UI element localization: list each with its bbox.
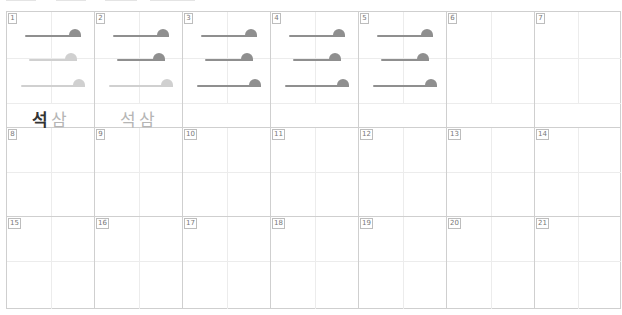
practice-cell: 5 [359, 12, 447, 128]
cell-number: 4 [272, 13, 281, 24]
guide-line [95, 103, 182, 104]
brush-stroke [113, 35, 167, 37]
brush-stroke [205, 59, 251, 61]
brush-stroke [289, 35, 343, 37]
cell-number: 2 [96, 13, 105, 24]
cell-number: 17 [184, 218, 197, 229]
brush-stroke [293, 59, 339, 61]
cell-number: 12 [360, 129, 373, 140]
brush-stroke [285, 85, 347, 87]
guide-line [359, 261, 446, 262]
guide-line [315, 217, 316, 309]
practice-cell: 1석삼 [7, 12, 95, 128]
guide-line [359, 172, 446, 173]
guide-line [535, 103, 621, 104]
cell-number: 19 [360, 218, 373, 229]
cell-number: 16 [96, 218, 109, 229]
practice-cell: 13 [447, 128, 535, 217]
brush-stroke [21, 85, 83, 87]
brush-stroke [117, 59, 163, 61]
brush-stroke [201, 35, 255, 37]
guide-line [7, 172, 94, 173]
practice-cell: 20 [447, 217, 535, 309]
practice-cell: 18 [271, 217, 359, 309]
guide-line [7, 261, 94, 262]
guide-line [535, 172, 621, 173]
practice-cell: 7 [535, 12, 621, 128]
practice-cell: 4 [271, 12, 359, 128]
cell-number: 14 [536, 129, 549, 140]
guide-line [403, 217, 404, 309]
practice-cell: 10 [183, 128, 271, 217]
cell-number: 1 [8, 13, 17, 24]
guide-line [51, 217, 52, 309]
cell-number: 13 [448, 129, 461, 140]
cell-number: 8 [8, 129, 17, 140]
practice-cell: 19 [359, 217, 447, 309]
practice-cell: 16 [95, 217, 183, 309]
cell-number: 9 [96, 129, 105, 140]
hangul-character: 석 [120, 110, 139, 130]
brush-stroke [25, 35, 79, 37]
practice-cell: 2석삼 [95, 12, 183, 128]
cell-number: 7 [536, 13, 545, 24]
cell-number: 5 [360, 13, 369, 24]
hangul-character: 삼 [51, 110, 70, 130]
practice-cell: 9 [95, 128, 183, 217]
cell-number: 10 [184, 129, 197, 140]
guide-line [183, 103, 270, 104]
guide-line [227, 217, 228, 309]
cell-number: 15 [8, 218, 21, 229]
cell-number: 3 [184, 13, 193, 24]
guide-line [183, 172, 270, 173]
guide-line [447, 261, 534, 262]
guide-line [535, 261, 621, 262]
practice-cell: 6 [447, 12, 535, 128]
cell-number: 18 [272, 218, 285, 229]
practice-grid: 1석삼2석삼3456789101112131415161718192021 [6, 11, 621, 309]
practice-cell: 15 [7, 217, 95, 309]
guide-line [447, 58, 534, 59]
guide-line [7, 103, 94, 104]
guide-line [359, 103, 446, 104]
brush-stroke [373, 85, 435, 87]
practice-cell: 11 [271, 128, 359, 217]
guide-line [95, 172, 182, 173]
guide-line [95, 261, 182, 262]
guide-line [578, 217, 579, 309]
brush-stroke [197, 85, 259, 87]
guide-line [271, 103, 358, 104]
guide-line [535, 58, 621, 59]
guide-line [447, 103, 534, 104]
brush-stroke [109, 85, 171, 87]
cell-number: 6 [448, 13, 457, 24]
brush-stroke [377, 35, 431, 37]
hangul-character: 삼 [139, 110, 158, 130]
cell-number: 11 [272, 129, 285, 140]
hangul-character: 석 [32, 110, 51, 130]
guide-line [183, 261, 270, 262]
practice-cell: 3 [183, 12, 271, 128]
guide-line [139, 217, 140, 309]
practice-cell: 12 [359, 128, 447, 217]
brush-stroke [381, 59, 427, 61]
practice-cell: 8 [7, 128, 95, 217]
guide-line [447, 172, 534, 173]
practice-cell: 17 [183, 217, 271, 309]
practice-cell: 21 [535, 217, 621, 309]
guide-line [271, 261, 358, 262]
guide-line [271, 172, 358, 173]
cropped-header-text [0, 0, 622, 4]
cell-number: 20 [448, 218, 461, 229]
practice-cell: 14 [535, 128, 621, 217]
cell-number: 21 [536, 218, 549, 229]
guide-line [491, 217, 492, 309]
brush-stroke [29, 59, 75, 61]
